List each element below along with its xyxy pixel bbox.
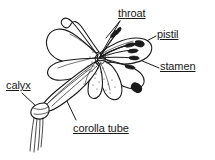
- label-stamen: stamen: [160, 60, 195, 72]
- label-calyx: calyx: [6, 79, 31, 91]
- label-throat: throat: [118, 7, 146, 19]
- calyx: [31, 103, 49, 119]
- figure-canvas: throat pistil stamen calyx corolla tube: [0, 0, 215, 160]
- label-pistil: pistil: [157, 28, 178, 40]
- leader-line-corolla-tube: [66, 99, 76, 120]
- pistil-stigma: [135, 41, 144, 47]
- label-corolla-tube: corolla tube: [73, 122, 129, 134]
- lily-flower-diagram: [0, 0, 215, 160]
- stem-fibers: [30, 118, 43, 152]
